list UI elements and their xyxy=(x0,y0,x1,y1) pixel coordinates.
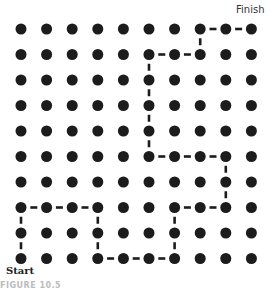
grid-dot xyxy=(169,253,180,264)
grid-dot xyxy=(92,75,103,86)
grid-dot xyxy=(92,49,103,60)
grid-dot xyxy=(195,75,206,86)
grid-dot xyxy=(92,202,103,213)
grid-dot xyxy=(246,202,257,213)
grid-dot xyxy=(118,253,129,264)
grid-dot xyxy=(220,126,231,137)
grid-dot xyxy=(195,228,206,239)
grid-dot xyxy=(92,177,103,188)
grid-dot xyxy=(246,151,257,162)
grid-dot xyxy=(195,253,206,264)
grid-dot xyxy=(41,24,52,35)
grid-dot xyxy=(67,253,78,264)
path-layer xyxy=(21,29,242,259)
grid-dot xyxy=(246,75,257,86)
grid-dot xyxy=(169,24,180,35)
dot-layer xyxy=(16,24,257,265)
grid-dot xyxy=(92,126,103,137)
dot-grid-diagram xyxy=(0,0,274,288)
grid-dot xyxy=(220,24,231,35)
grid-dot xyxy=(67,100,78,111)
grid-dot xyxy=(16,126,27,137)
grid-dot xyxy=(67,151,78,162)
grid-dot xyxy=(220,100,231,111)
finish-label: Finish xyxy=(236,4,264,15)
grid-dot xyxy=(144,202,155,213)
grid-dot xyxy=(220,202,231,213)
grid-dot xyxy=(118,202,129,213)
grid-dot xyxy=(246,228,257,239)
grid-dot xyxy=(41,151,52,162)
grid-dot xyxy=(67,202,78,213)
grid-dot xyxy=(16,151,27,162)
grid-dot xyxy=(220,177,231,188)
grid-dot xyxy=(67,24,78,35)
grid-dot xyxy=(220,75,231,86)
grid-dot xyxy=(16,177,27,188)
grid-dot xyxy=(169,100,180,111)
grid-dot xyxy=(67,49,78,60)
grid-dot xyxy=(118,75,129,86)
grid-dot xyxy=(16,100,27,111)
grid-dot xyxy=(169,202,180,213)
grid-dot xyxy=(144,253,155,264)
grid-dot xyxy=(92,100,103,111)
grid-dot xyxy=(118,24,129,35)
grid-dot xyxy=(220,228,231,239)
grid-dot xyxy=(195,126,206,137)
grid-dot xyxy=(246,253,257,264)
grid-dot xyxy=(16,202,27,213)
grid-dot xyxy=(41,228,52,239)
grid-dot xyxy=(118,151,129,162)
grid-dot xyxy=(169,151,180,162)
start-label: Start xyxy=(6,265,34,276)
grid-dot xyxy=(16,49,27,60)
grid-dot xyxy=(16,253,27,264)
grid-dot xyxy=(41,75,52,86)
grid-dot xyxy=(92,24,103,35)
grid-dot xyxy=(195,24,206,35)
grid-dot xyxy=(41,202,52,213)
grid-dot xyxy=(220,151,231,162)
grid-dot xyxy=(169,228,180,239)
grid-dot xyxy=(144,177,155,188)
grid-dot xyxy=(67,75,78,86)
grid-dot xyxy=(144,228,155,239)
grid-dot xyxy=(118,126,129,137)
grid-dot xyxy=(41,100,52,111)
grid-dot xyxy=(144,100,155,111)
grid-dot xyxy=(169,177,180,188)
grid-dot xyxy=(92,253,103,264)
grid-dot xyxy=(246,49,257,60)
grid-dot xyxy=(16,24,27,35)
grid-dot xyxy=(67,228,78,239)
grid-dot xyxy=(169,49,180,60)
grid-dot xyxy=(246,24,257,35)
grid-dot xyxy=(92,228,103,239)
grid-dot xyxy=(195,49,206,60)
grid-dot xyxy=(118,177,129,188)
grid-dot xyxy=(41,126,52,137)
grid-dot xyxy=(246,177,257,188)
grid-dot xyxy=(41,253,52,264)
grid-dot xyxy=(144,49,155,60)
grid-dot xyxy=(67,126,78,137)
grid-dot xyxy=(118,100,129,111)
grid-dot xyxy=(169,126,180,137)
grid-dot xyxy=(16,75,27,86)
grid-dot xyxy=(220,49,231,60)
grid-dot xyxy=(144,126,155,137)
grid-dot xyxy=(41,177,52,188)
grid-dot xyxy=(118,49,129,60)
grid-dot xyxy=(246,100,257,111)
grid-dot xyxy=(92,151,103,162)
grid-dot xyxy=(169,75,180,86)
grid-dot xyxy=(144,24,155,35)
grid-dot xyxy=(195,100,206,111)
grid-dot xyxy=(118,228,129,239)
grid-dot xyxy=(41,49,52,60)
grid-dot xyxy=(144,75,155,86)
grid-dot xyxy=(195,151,206,162)
grid-dot xyxy=(16,228,27,239)
figure-caption: FIGURE 10.5 xyxy=(0,281,61,288)
